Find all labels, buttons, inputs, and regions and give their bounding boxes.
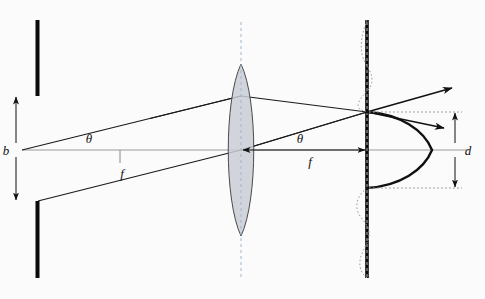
optics-diagram-svg: b f f θ θ — [0, 0, 485, 299]
aperture-bar-bottom — [36, 201, 40, 278]
optics-diagram-figure: b f f θ θ — [0, 0, 485, 299]
aperture-width-label: b — [3, 143, 10, 158]
incident-angle-label: θ — [86, 131, 93, 146]
spot-size-label: d — [465, 143, 472, 158]
aperture-bar-top — [36, 20, 40, 96]
refracted-angle-label: θ — [297, 131, 304, 146]
